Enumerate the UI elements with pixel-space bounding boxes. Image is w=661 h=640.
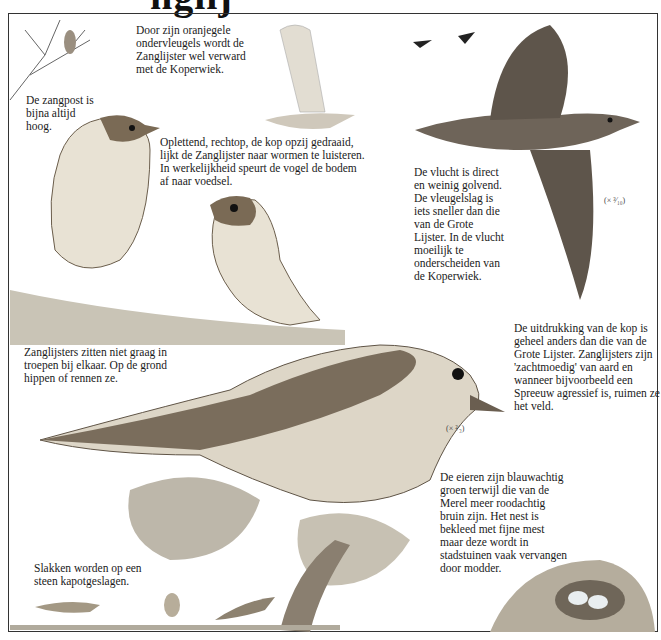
caption-perch: De zangpost is bijna altijd hoog. <box>26 94 104 133</box>
caption-snails: Slakken worden op een steen kapotgeslage… <box>34 562 159 588</box>
caption-underwing: Door zijn oranjegele ondervleugels wordt… <box>136 24 256 76</box>
scale-flight: (× ³⁄₁₀) <box>604 196 625 205</box>
caption-listening: Oplettend, rechtop, de kop opzij gedraai… <box>160 136 365 188</box>
branch-perch-drawing <box>10 20 90 100</box>
caption-flight: De vlucht is direct en weinig golvend. D… <box>414 166 506 283</box>
caption-ground: Zanglijsters zitten niet graag in troepe… <box>24 346 184 385</box>
caption-head: De uitdrukking van de kop is geheel ande… <box>514 322 660 413</box>
standing-thrush-drawing <box>51 115 160 268</box>
scale-main: (× ²⁄₃) <box>446 424 464 433</box>
caption-eggs: De eieren zijn blauwachtig groen terwijl… <box>440 471 570 575</box>
listening-thrush-drawing <box>210 196 320 325</box>
